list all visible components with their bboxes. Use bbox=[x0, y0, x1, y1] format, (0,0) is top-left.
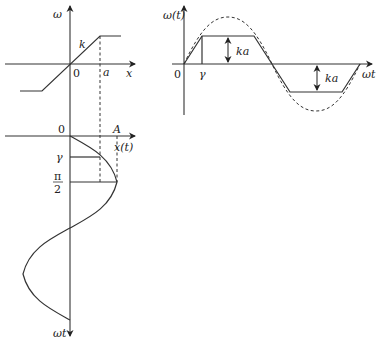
omega-t-axis-label: ω(t) bbox=[163, 9, 185, 22]
omega-axis-label: ω bbox=[53, 8, 62, 21]
pi-label: π bbox=[54, 170, 61, 183]
saturation-nonlinearity-diagram: ω k 0 a x ω(t) 0 γ ka ka ωt 0 A x(t) γ π bbox=[0, 0, 380, 341]
origin-label: 0 bbox=[73, 67, 80, 80]
response-panel: ω(t) 0 γ ka ka ωt bbox=[163, 6, 376, 115]
response-origin-label: 0 bbox=[174, 68, 181, 81]
time-axis-label: ωt bbox=[53, 327, 67, 340]
input-gamma-label: γ bbox=[56, 151, 63, 164]
x-t-axis-label: x(t) bbox=[114, 141, 133, 154]
two-label: 2 bbox=[54, 183, 61, 196]
x-axis-label: x bbox=[126, 67, 133, 80]
saturation-a-label: a bbox=[103, 66, 110, 79]
slope-label: k bbox=[79, 38, 86, 51]
input-origin-label: 0 bbox=[58, 123, 65, 136]
gamma-label: γ bbox=[199, 68, 206, 81]
amplitude-A-label: A bbox=[112, 123, 121, 136]
wt-axis-label: ωt bbox=[362, 68, 376, 81]
ka-label-top: ka bbox=[236, 45, 249, 58]
ka-label-bottom: ka bbox=[325, 72, 338, 85]
input-panel: 0 A x(t) γ π 2 ωt bbox=[5, 110, 135, 340]
